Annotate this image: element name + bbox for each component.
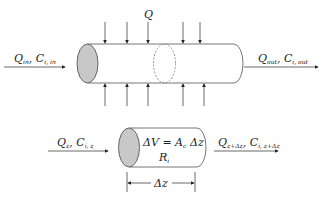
side-flow-arrows-top [105,22,200,43]
dz-label: Δz [153,177,168,190]
pfr-diagram: Q Qin, Ci, in Qout, Ci, out ΔV = Ac Δz R… [0,0,322,199]
outlet-label: Qout, Ci, out [258,52,309,65]
side-flow-arrows-bottom [105,84,204,106]
inlet-face-ellipse [77,44,98,83]
element-face-ellipse [119,128,140,167]
volume-equation: ΔV = Ac Δz [142,136,204,149]
side-flow-label: Q [144,8,153,21]
element-outlet-label: Qz+Δz, Ci, z+Δz [218,136,280,149]
element-inlet-label: Qz, Ci, z [57,136,94,149]
cylinder-body [87,44,243,83]
reactor-cylinder [77,44,243,83]
inlet-label: Qin, Ci, in [14,52,56,65]
